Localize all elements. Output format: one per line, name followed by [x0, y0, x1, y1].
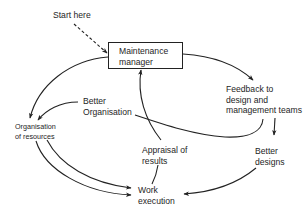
edge-feedback-to-better-organisation [135, 115, 263, 137]
edge-manager-to-feedback [183, 54, 253, 80]
organisation-resources-node-label: Organisation of resources [15, 122, 56, 141]
edge-better-organisation-to-resources [38, 102, 78, 120]
edge-better-designs-to-work [184, 168, 256, 194]
start-here-label: Start here [53, 10, 91, 21]
edge-resources-to-work-2 [36, 141, 131, 195]
feedback-node-label: Feedback to design and management teams [226, 84, 302, 116]
appraisal-node-label: Appraisal of results [142, 145, 187, 166]
start-arrow [74, 24, 107, 53]
better-organisation-node-label: Better Organisation [83, 96, 132, 117]
maintenance-manager-label: Maintenance manager [109, 43, 182, 67]
edge-resources-to-work-1 [47, 140, 131, 188]
maintenance-manager-node: Maintenance manager [108, 42, 183, 69]
better-designs-node-label: Better designs [255, 146, 285, 167]
edge-work-to-appraisal [152, 165, 158, 184]
edge-feedback-to-better-designs [274, 118, 275, 135]
edge-appraisal-to-manager [140, 70, 161, 140]
work-execution-node-label: Work execution [138, 185, 175, 206]
